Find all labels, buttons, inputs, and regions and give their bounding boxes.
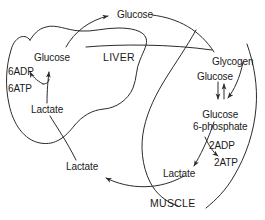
label-muscle-glycogen: Glycogen [212,56,253,67]
label-liver-compartment: LIVER [103,52,135,63]
arrow-liver-lactate-to-glucose [47,72,49,103]
arrow-blood-lactate-to-liver [50,116,76,160]
label-muscle-2atp: 2ATP [214,157,238,168]
label-liver-glucose: Glucose [34,52,70,63]
label-muscle-2adp: 2ADP [209,140,235,151]
label-muscle-lactate: Lactate [163,168,195,179]
label-muscle-compartment: MUSCLE [150,198,196,209]
label-blood-lactate: Lactate [66,161,98,172]
label-liver-6atp: 6ATP [8,83,32,94]
muscle-outline-left [142,30,196,206]
line-glucose-feed-liver [86,45,212,50]
label-liver-6adp: 6ADP [8,66,34,77]
label-muscle-g6p: Glucose 6-phosphate [193,109,248,132]
cori-cycle-diagram: Glucose Glucose LIVER 6ADP 6ATP Lactate … [0,0,265,220]
label-muscle-glucose: Glucose [197,71,233,82]
label-muscle-g6p-line1: Glucose [193,109,248,121]
label-muscle-g6p-line2: 6-phosphate [193,121,248,133]
label-blood-glucose: Glucose [117,9,153,20]
label-liver-lactate: Lactate [31,104,63,115]
